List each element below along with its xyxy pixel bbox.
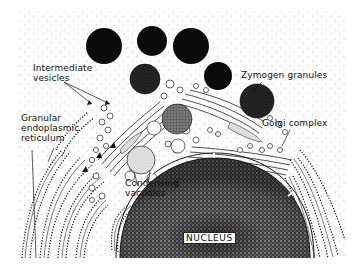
label-granular-er: Granular endoplasmic reticulum bbox=[21, 113, 79, 143]
label-granular-er-line2: endoplasmic bbox=[21, 123, 79, 133]
label-condensing-vacuoles-line1: Condensing bbox=[125, 178, 179, 188]
label-condensing-vacuoles-line2: vacuoles bbox=[125, 188, 179, 198]
label-intermediate-vesicles-line2: vesicles bbox=[33, 73, 92, 83]
label-granular-er-line3: reticulum bbox=[21, 133, 79, 143]
label-condensing-vacuoles: Condensing vacuoles bbox=[125, 178, 179, 198]
label-nucleus: NUCLEUS bbox=[183, 232, 236, 244]
label-zymogen-granules: Zymogen granules bbox=[241, 70, 327, 80]
label-intermediate-vesicles: Intermediate vesicles bbox=[33, 63, 92, 83]
label-granular-er-line1: Granular bbox=[21, 113, 79, 123]
label-golgi-complex: Golgi complex bbox=[262, 118, 328, 128]
label-intermediate-vesicles-line1: Intermediate bbox=[33, 63, 92, 73]
